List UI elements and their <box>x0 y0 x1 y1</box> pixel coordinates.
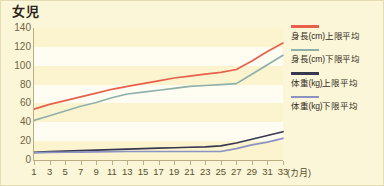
series-line <box>34 132 283 153</box>
legend-swatch <box>291 96 319 99</box>
y-tick-label: 140 <box>5 23 31 33</box>
x-tick <box>127 161 128 165</box>
legend-swatch <box>291 49 319 52</box>
legend-label: 体重(kg)下限平均 <box>291 101 383 111</box>
x-tick <box>190 161 191 165</box>
x-tick <box>143 161 144 165</box>
plot-area <box>34 28 283 160</box>
x-tick <box>221 161 222 165</box>
legend-label: 体重(kg)上限平均 <box>291 78 383 88</box>
x-tick-label: 5 <box>62 167 67 177</box>
x-tick <box>96 161 97 165</box>
y-tick-label: 60 <box>5 98 31 108</box>
x-tick-label: 31 <box>262 167 273 177</box>
x-tick-label: 11 <box>107 167 117 177</box>
legend-label: 身長(cm)下限平均 <box>291 54 383 64</box>
x-tick-label: 7 <box>78 167 83 177</box>
x-tick-label: 19 <box>169 167 180 177</box>
x-tick <box>65 161 66 165</box>
y-axis-labels: 020406080100120140 <box>3 1 31 186</box>
x-tick-label: 29 <box>247 167 258 177</box>
x-tick-label: 25 <box>215 167 226 177</box>
x-tick <box>252 161 253 165</box>
y-axis <box>33 28 34 161</box>
x-tick <box>50 161 51 165</box>
x-tick <box>81 161 82 165</box>
y-tick-label: 0 <box>5 155 31 165</box>
x-tick-label: 15 <box>138 167 149 177</box>
y-tick-label: 80 <box>5 80 31 90</box>
x-tick <box>159 161 160 165</box>
x-tick <box>34 161 35 165</box>
legend-item[interactable]: 体重(kg)下限平均 <box>291 96 383 112</box>
x-tick <box>267 161 268 165</box>
legend-label: 身長(cm)上限平均 <box>291 31 383 41</box>
x-tick <box>174 161 175 165</box>
x-tick <box>236 161 237 165</box>
x-tick <box>112 161 113 165</box>
y-tick-label: 20 <box>5 136 31 146</box>
series-line <box>34 43 283 109</box>
legend: 身長(cm)上限平均身長(cm)下限平均体重(kg)上限平均体重(kg)下限平均 <box>291 25 383 119</box>
x-tick-label: 17 <box>153 167 164 177</box>
x-tick-label: 3 <box>47 167 52 177</box>
legend-swatch <box>291 25 319 28</box>
x-tick-label: 1 <box>31 167 36 177</box>
x-tick-label: 9 <box>94 167 99 177</box>
series-lines <box>34 28 283 160</box>
y-tick-label: 40 <box>5 117 31 127</box>
x-axis-unit-label: (カ月) <box>287 168 311 178</box>
x-tick-label: 27 <box>231 167 242 177</box>
x-tick <box>205 161 206 165</box>
x-tick-label: 23 <box>200 167 211 177</box>
legend-item[interactable]: 体重(kg)上限平均 <box>291 72 383 88</box>
legend-item[interactable]: 身長(cm)上限平均 <box>291 25 383 41</box>
legend-swatch <box>291 72 319 75</box>
x-tick-label: 21 <box>184 167 195 177</box>
x-tick <box>283 161 284 165</box>
x-tick-label: 13 <box>122 167 133 177</box>
chart-container: 女児 020406080100120140 135791113151719212… <box>0 0 384 186</box>
y-tick-label: 120 <box>5 42 31 52</box>
legend-item[interactable]: 身長(cm)下限平均 <box>291 49 383 65</box>
y-tick-label: 100 <box>5 61 31 71</box>
